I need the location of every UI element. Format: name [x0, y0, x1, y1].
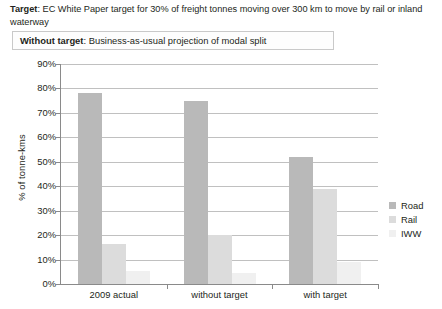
bar-road[interactable] [78, 93, 102, 284]
target-note-label: Target [10, 4, 37, 14]
without-target-text: : Business-as-usual projection of modal … [83, 35, 266, 46]
bar-iww[interactable] [126, 271, 150, 284]
y-axis-tick-label: 80% [22, 82, 56, 93]
legend-item-label: Road [401, 200, 423, 211]
legend-item-label: IWW [401, 228, 421, 239]
legend-item[interactable]: IWW [389, 226, 442, 240]
bar-groups [61, 64, 378, 284]
x-axis-tick-mark [378, 284, 379, 289]
bar-group-bars [61, 64, 167, 284]
bar-group [61, 64, 167, 284]
y-axis-tick-label: 0% [22, 278, 56, 289]
y-axis-tick-label: 60% [22, 131, 56, 142]
legend-item[interactable]: Road [389, 198, 442, 212]
legend-swatch-rail [389, 216, 396, 223]
x-axis-tick-label: without target [167, 289, 273, 305]
legend-item-label: Rail [401, 214, 417, 225]
x-axis-line [60, 284, 379, 285]
plot-area [60, 64, 378, 284]
without-target-label: Without target [20, 35, 83, 46]
x-axis-tick-label: with target [272, 289, 378, 305]
legend-item[interactable]: Rail [389, 212, 442, 226]
bar-road[interactable] [289, 157, 313, 284]
bar-group-bars [167, 64, 273, 284]
bar-road[interactable] [184, 101, 208, 284]
y-axis-tick-label: 90% [22, 58, 56, 69]
bar-group-bars [272, 64, 378, 284]
bar-rail[interactable] [102, 244, 126, 284]
bar-rail[interactable] [313, 189, 337, 284]
modal-split-bar-chart: % of tonne-kms 90%80%70%60%50%40%30%20%1… [0, 56, 442, 309]
bar-group [272, 64, 378, 284]
chart-legend: RoadRailIWW [389, 198, 442, 240]
legend-swatch-iww [389, 230, 396, 237]
x-axis-tick-label: 2009 actual [61, 289, 167, 305]
y-axis-tick-label: 70% [22, 107, 56, 118]
bar-iww[interactable] [337, 262, 361, 284]
y-axis-tick-label: 40% [22, 180, 56, 191]
legend-swatch-road [389, 202, 396, 209]
target-note: Target: EC White Paper target for 30% of… [10, 3, 435, 28]
y-axis-tick-label: 30% [22, 205, 56, 216]
x-axis-tick-labels: 2009 actualwithout targetwith target [61, 289, 378, 305]
without-target-callout: Without target: Business-as-usual projec… [12, 31, 334, 50]
y-axis-tick-label: 20% [22, 229, 56, 240]
y-axis-tick-labels: 90%80%70%60%50%40%30%20%10%0% [18, 56, 56, 309]
target-note-text: : EC White Paper target for 30% of freig… [10, 4, 422, 27]
bar-iww[interactable] [232, 273, 256, 284]
y-axis-tick-label: 10% [22, 254, 56, 265]
bar-group [167, 64, 273, 284]
y-axis-tick-label: 50% [22, 156, 56, 167]
bar-rail[interactable] [208, 235, 232, 284]
